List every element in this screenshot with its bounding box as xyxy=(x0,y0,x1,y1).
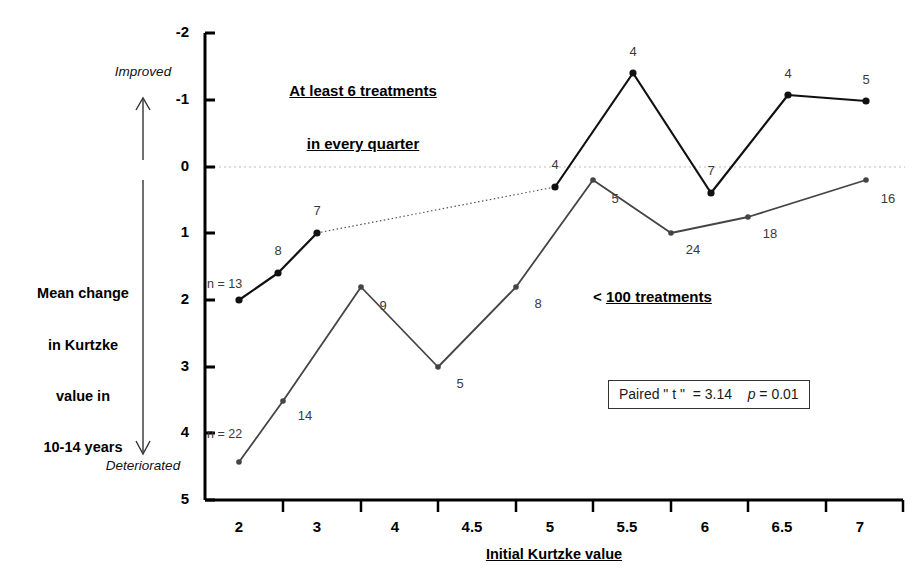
y-axis-title: Mean change in Kurtzke value in 10-14 ye… xyxy=(8,251,158,491)
point-label-lower-4-5: 5 xyxy=(443,376,477,391)
series-lower-markers xyxy=(236,177,869,465)
stats-spacer xyxy=(732,386,748,402)
improved-label: Improved xyxy=(83,64,203,80)
x-tick-label-2: 2 xyxy=(219,518,259,536)
upper-group-annotation: At least 6 treatments in every quarter xyxy=(253,47,473,189)
improved-arrow-icon xyxy=(136,98,150,160)
upper-series-n-label: n = 13 xyxy=(207,277,242,292)
upper-group-annotation-line-2: in every quarter xyxy=(253,135,473,153)
point-label-upper-3: 8 xyxy=(261,243,295,258)
point-label-lower-5: 8 xyxy=(521,296,555,311)
x-tick-label-4: 4 xyxy=(375,518,415,536)
y-axis-title-line-3: value in xyxy=(8,388,158,405)
x-axis-title: Initial Kurtzke value xyxy=(434,546,674,563)
y-axis-title-line-2: in Kurtzke xyxy=(8,337,158,354)
y-tick-label-1: 1 xyxy=(155,223,189,241)
y-tick-label-minus2: -2 xyxy=(155,23,189,41)
x-tick-label-4-5: 4.5 xyxy=(452,518,492,536)
deteriorated-label: Deteriorated xyxy=(83,458,203,474)
x-tick-label-3: 3 xyxy=(297,518,337,536)
y-axis-title-line-4: 10-14 years xyxy=(8,439,158,456)
point-label-upper-5: 4 xyxy=(538,157,572,172)
stats-prefix: Paired " t " = xyxy=(619,386,705,402)
x-tick-label-6-5: 6.5 xyxy=(762,518,802,536)
stats-p-value: = 0.01 xyxy=(755,386,798,402)
point-label-lower-3: 14 xyxy=(288,408,322,423)
point-label-upper-7: 5 xyxy=(849,72,883,87)
statistics-box: Paired " t " = 3.14 p = 0.01 xyxy=(608,380,810,409)
point-label-upper-6: 7 xyxy=(694,163,728,178)
point-label-lower-6: 24 xyxy=(676,242,710,257)
y-tick-label-4: 4 xyxy=(155,423,189,441)
lower-group-annotation: < 100 treatments xyxy=(593,288,712,306)
x-axis-ticks xyxy=(283,500,903,512)
point-label-upper-5-5: 4 xyxy=(616,44,650,59)
y-tick-label-minus1: -1 xyxy=(155,90,189,108)
series-lower-line xyxy=(239,180,866,462)
y-tick-label-3: 3 xyxy=(155,357,189,375)
point-label-upper-4: 7 xyxy=(300,203,334,218)
point-label-lower-5-5: 5 xyxy=(598,191,632,206)
stats-t-value: 3.14 xyxy=(705,386,732,402)
figure-container: -2 -1 0 1 2 3 4 5 Mean change in Kurtzke… xyxy=(0,0,913,570)
point-label-lower-6-5: 18 xyxy=(753,226,787,241)
y-tick-label-2: 2 xyxy=(155,290,189,308)
point-label-upper-6-5: 4 xyxy=(771,66,805,81)
lower-group-underlined: 100 treatments xyxy=(606,288,712,305)
point-label-lower-4: 9 xyxy=(366,298,400,313)
y-tick-label-0: 0 xyxy=(155,157,189,175)
lower-series-n-label: n = 22 xyxy=(207,427,242,442)
x-tick-label-5-5: 5.5 xyxy=(607,518,647,536)
x-tick-label-6: 6 xyxy=(685,518,725,536)
upper-group-annotation-line-1: At least 6 treatments xyxy=(253,82,473,100)
series-upper-line-dotted-gap xyxy=(317,187,555,233)
y-tick-label-5: 5 xyxy=(155,490,189,508)
x-tick-label-5: 5 xyxy=(530,518,570,536)
point-label-lower-7: 16 xyxy=(871,191,905,206)
lower-group-prefix: < xyxy=(593,288,606,305)
y-axis-title-line-1: Mean change xyxy=(8,285,158,302)
x-tick-label-7: 7 xyxy=(840,518,880,536)
